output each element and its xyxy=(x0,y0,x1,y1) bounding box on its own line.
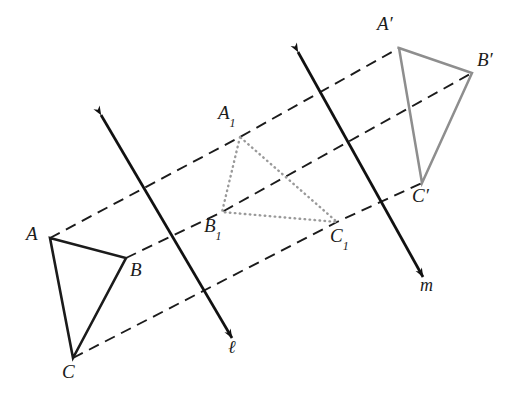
vertex-label-c-prime: C′ xyxy=(412,186,429,205)
vertex-label-c: C xyxy=(62,362,75,381)
triangle-a-prime-b-prime-c-prime xyxy=(399,48,472,183)
line-label-l: ℓ xyxy=(228,338,236,356)
dashed-path-c xyxy=(73,183,422,358)
line-label-m: m xyxy=(420,276,433,294)
geometry-figure: A B C A1 B1 C1 A′ B′ C′ ℓ m xyxy=(0,0,508,407)
vertex-label-a1: A1 xyxy=(218,103,236,126)
vertex-label-b: B xyxy=(130,260,142,279)
figure-canvas xyxy=(0,0,508,407)
vertex-label-b1: B1 xyxy=(204,216,222,239)
dashed-path-a xyxy=(50,48,399,238)
triangle-abc xyxy=(50,238,126,358)
vertex-label-a-prime: A′ xyxy=(377,14,393,33)
dashed-correspondence-lines xyxy=(50,48,472,358)
vertex-label-a: A xyxy=(26,224,38,243)
vertex-label-b-prime: B′ xyxy=(477,50,493,69)
vertex-label-c1: C1 xyxy=(330,226,349,249)
